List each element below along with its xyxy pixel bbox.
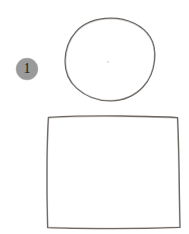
callout-badge-1[interactable]: 1	[16, 58, 38, 80]
figure-drawing: 1	[0, 0, 189, 234]
callout-badge-label: 1	[24, 61, 31, 76]
square-shape	[47, 116, 180, 229]
circle-outline-overdraw	[66, 19, 154, 100]
square-outline	[47, 116, 180, 229]
circle-shape	[65, 18, 155, 101]
figure-canvas: 1	[0, 0, 189, 234]
square-outline-overdraw	[47, 117, 179, 228]
speck-artifact	[107, 61, 109, 63]
